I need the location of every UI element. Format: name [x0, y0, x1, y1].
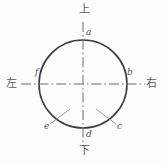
point-label-b: b	[127, 68, 133, 77]
point-label-e: e	[44, 122, 49, 131]
point-label-a: a	[86, 28, 91, 37]
direction-label-right: 右	[146, 78, 157, 89]
point-label-d: d	[86, 130, 92, 139]
point-label-c: c	[117, 122, 122, 131]
figure-canvas: 上 下 左 右 a b c d e f	[0, 0, 167, 164]
circle-diagram-svg	[0, 0, 167, 164]
direction-label-bottom: 下	[79, 145, 90, 156]
direction-label-left: 左	[6, 78, 17, 89]
point-label-f: f	[35, 68, 38, 77]
direction-label-top: 上	[79, 4, 90, 15]
